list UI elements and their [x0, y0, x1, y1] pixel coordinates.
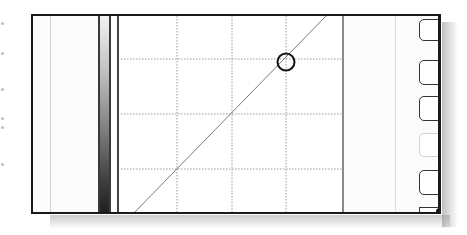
side-button-s[interactable]: S [419, 96, 441, 121]
resize-grip-icon[interactable] [436, 208, 441, 214]
gradient-separator [111, 16, 119, 212]
grid-lines [121, 16, 342, 214]
margin-mark [1, 126, 4, 129]
curve-graph-canvas[interactable] [121, 16, 342, 214]
input-gradient-bar [98, 16, 111, 212]
side-button-label: S [440, 100, 441, 118]
side-button-blank[interactable] [419, 170, 441, 195]
margin-mark [1, 22, 4, 25]
left-panel [33, 16, 98, 212]
window-shadow-right [442, 22, 458, 227]
right-panel: C L S S [342, 16, 440, 212]
margin-mark [1, 88, 4, 91]
side-button-label: S [440, 136, 441, 154]
side-button-l[interactable]: L [419, 60, 441, 85]
tone-curve-line[interactable] [131, 16, 326, 214]
window-shadow-bottom [50, 215, 450, 229]
side-button-s-disabled: S [419, 133, 441, 157]
curves-editor-window: C L S S [31, 14, 441, 214]
curve-graph[interactable] [121, 16, 342, 214]
right-panel-divider [395, 16, 396, 212]
left-panel-divider [50, 16, 51, 212]
side-button-label: C [440, 21, 441, 39]
margin-mark [1, 163, 4, 166]
side-button-c[interactable]: C [419, 19, 441, 41]
screenshot-stage: C L S S [0, 0, 467, 235]
side-button-label: L [440, 64, 441, 82]
margin-mark [1, 117, 4, 120]
margin-mark [1, 52, 4, 55]
